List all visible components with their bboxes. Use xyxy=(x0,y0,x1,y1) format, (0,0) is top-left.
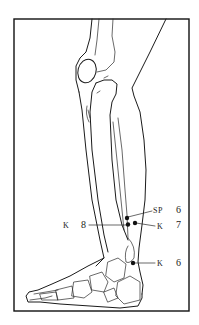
tibia-detail xyxy=(97,91,100,93)
tibial-tuberosity xyxy=(86,106,90,122)
label-k6-meridian: K xyxy=(157,259,163,269)
talus xyxy=(106,258,126,282)
malleolus xyxy=(125,238,134,263)
label-k6-number: 6 xyxy=(176,258,181,268)
fibula-inner xyxy=(113,122,124,230)
acupuncture-leg-diagram: SP 6 K 8 K 7 K 6 xyxy=(0,0,199,325)
label-k8-number: 8 xyxy=(81,220,86,230)
calf-outline xyxy=(132,19,166,294)
shin-outline xyxy=(79,92,104,266)
label-sp6-meridian: SP xyxy=(153,206,163,216)
femur-shaft-line xyxy=(95,19,99,55)
femur-detail xyxy=(104,76,108,78)
calcaneus xyxy=(116,276,140,304)
femur-condyle xyxy=(97,19,115,72)
phalanges xyxy=(40,292,58,300)
label-k8-meridian: K xyxy=(63,221,69,231)
label-sp6-number: 6 xyxy=(176,205,181,215)
foot-outline xyxy=(26,258,142,308)
sp6-leader-line xyxy=(128,211,152,217)
label-k7-number: 7 xyxy=(176,220,181,230)
label-k7-meridian: K xyxy=(157,222,163,232)
navicular xyxy=(90,272,108,292)
metatarsal xyxy=(56,286,74,300)
tibia-anterior-edge xyxy=(90,83,108,252)
thigh-front-outline xyxy=(76,19,92,92)
point-sp6 xyxy=(125,216,129,220)
k7-leader-line xyxy=(136,223,155,226)
toes xyxy=(30,290,58,300)
point-k7 xyxy=(133,221,137,225)
point-k6 xyxy=(131,261,135,265)
point-k8 xyxy=(126,222,130,226)
leg-drawing xyxy=(0,0,199,325)
cuneiform xyxy=(72,280,92,298)
